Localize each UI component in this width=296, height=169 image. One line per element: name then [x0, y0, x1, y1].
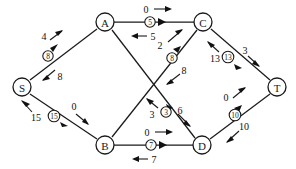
diagram-canvas: 8 15 5 8 3 7 1	[0, 0, 296, 169]
arrowhead-b-d-on-edge	[159, 141, 167, 149]
flow-value-s-b-backward: 15	[31, 112, 41, 123]
edge-label-b-d: 7	[146, 140, 156, 150]
node-b[interactable]: B	[96, 136, 114, 154]
flow-value-a-c-backward: 5	[151, 31, 156, 42]
flow-value-d-t-backward: 10	[239, 121, 249, 132]
edge-label-circles: 8 15 5 8 3 7 1	[43, 17, 241, 150]
flow-values: 4 8 0 15 0 5 2 8 3 6 0 7 3 13 0 10	[31, 4, 249, 165]
edge-label-c-t: 13	[222, 51, 234, 63]
arrow-d-t-forward	[233, 87, 246, 98]
arrow-s-a-backward	[42, 70, 55, 81]
node-t[interactable]: T	[268, 78, 286, 96]
node-label-s: S	[19, 82, 25, 94]
flow-value-a-d-forward: 3	[150, 109, 155, 120]
arrowhead-s-a-on-edge	[50, 44, 58, 52]
flow-value-c-t-backward: 13	[210, 53, 220, 64]
edge-line-s-a	[30, 29, 97, 80]
edge-label-s-a: 8	[43, 51, 53, 61]
arrow-a-c-forward	[154, 6, 172, 12]
flow-value-d-t-forward: 0	[224, 92, 229, 103]
flow-value-a-d-backward: 6	[178, 105, 183, 116]
edge-label-text: 3	[164, 108, 168, 117]
arrow-s-a-forward	[50, 30, 63, 40]
node-c[interactable]: C	[194, 13, 212, 31]
edge-label-b-c: 8	[167, 53, 177, 63]
node-label-t: T	[274, 82, 281, 94]
arrow-s-b-backward	[21, 100, 32, 112]
flow-value-s-a-backward: 8	[58, 71, 63, 82]
node-a[interactable]: A	[96, 13, 114, 31]
graph-svg: 8 15 5 8 3 7 1	[0, 0, 296, 169]
arrowhead-s-b-on-edge	[60, 122, 68, 127]
arrow-s-b-forward	[76, 114, 89, 125]
arrowhead-a-c-on-edge	[158, 18, 166, 26]
edge-label-text: 10	[231, 111, 239, 120]
edge-label-s-b: 15	[48, 110, 60, 122]
node-s[interactable]: S	[13, 78, 31, 96]
node-label-b: B	[101, 140, 108, 152]
arrow-a-c-backward	[131, 33, 147, 39]
flow-value-b-d-forward: 0	[145, 127, 150, 138]
edge-label-text: 8	[170, 54, 174, 63]
flow-value-b-d-backward: 7	[152, 154, 157, 165]
edge-label-text: 7	[149, 141, 153, 150]
edge-label-text: 5	[148, 18, 152, 27]
edge-label-a-c: 5	[145, 17, 155, 27]
arrow-d-t-backward	[226, 131, 239, 143]
edge-label-text: 13	[224, 53, 232, 62]
flow-value-b-c-backward: 8	[182, 65, 187, 76]
flow-value-b-c-forward: 2	[158, 40, 163, 51]
flow-value-s-a-forward: 4	[42, 31, 47, 42]
flow-value-a-c-forward: 0	[144, 4, 149, 15]
graph-nodes: S A B C D T	[13, 13, 286, 154]
edge-label-a-d: 3	[161, 107, 171, 117]
node-label-d: D	[198, 140, 206, 152]
flow-value-c-t-forward: 3	[243, 45, 248, 56]
arrow-b-d-forward	[155, 129, 173, 135]
node-label-c: C	[199, 17, 206, 29]
node-d[interactable]: D	[193, 136, 211, 154]
edge-flow-arrows	[21, 6, 260, 162]
edge-label-d-t: 10	[229, 109, 241, 121]
arrow-a-d-forward	[146, 98, 158, 108]
arrow-b-d-backward	[132, 156, 148, 162]
arrowhead-c-t-on-edge	[234, 64, 242, 70]
arrow-b-c-forward	[168, 29, 183, 42]
flow-value-s-b-forward: 0	[72, 101, 77, 112]
edge-label-text: 8	[46, 52, 50, 61]
edge-label-text: 15	[50, 112, 58, 121]
arrow-c-t-backward	[207, 41, 219, 52]
arrow-b-c-backward	[166, 74, 180, 85]
node-label-a: A	[101, 17, 109, 29]
